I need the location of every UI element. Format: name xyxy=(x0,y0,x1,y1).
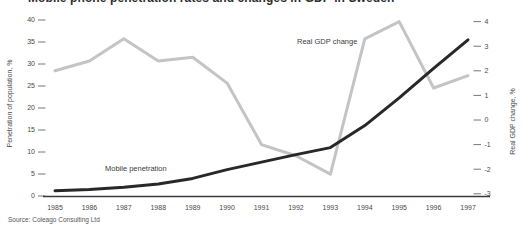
line-chart-canvas: 403530252015105043210-1-2-31985198619871… xyxy=(0,0,522,229)
right-axis-tick-label: 1 xyxy=(485,92,489,99)
series-label-mobile-penetration: Mobile penetration xyxy=(105,164,167,173)
x-axis-year-label: 1993 xyxy=(323,204,339,211)
source-note: Source: Coleago Consulting Ltd xyxy=(8,216,100,223)
x-axis-year-label: 1985 xyxy=(47,204,63,211)
x-axis-year-label: 1986 xyxy=(82,204,98,211)
series-line-real-gdp-change xyxy=(55,22,468,175)
left-axis-tick-label: 35 xyxy=(27,38,35,45)
left-axis-tick-label: 15 xyxy=(27,126,35,133)
left-axis-tick-label: 40 xyxy=(27,16,35,23)
right-axis-tick-label: 3 xyxy=(485,43,489,50)
x-axis-year-label: 1991 xyxy=(254,204,270,211)
right-axis-tick-label: 2 xyxy=(485,67,489,74)
x-axis-year-label: 1989 xyxy=(185,204,201,211)
x-axis-year-label: 1995 xyxy=(391,204,407,211)
x-axis-year-label: 1997 xyxy=(460,204,476,211)
x-axis-year-label: 1990 xyxy=(219,204,235,211)
series-label-real-gdp-change: Real GDP change xyxy=(297,37,357,46)
right-axis-tick-label: 4 xyxy=(485,18,489,25)
x-axis-year-label: 1988 xyxy=(150,204,166,211)
x-axis-year-label: 1996 xyxy=(426,204,442,211)
right-axis-tick-label: -1 xyxy=(485,141,491,148)
left-axis-tick-label: 10 xyxy=(27,148,35,155)
right-axis-tick-label: -2 xyxy=(485,166,491,173)
left-axis-tick-label: 0 xyxy=(31,192,35,199)
left-axis-tick-label: 5 xyxy=(31,170,35,177)
left-axis-tick-label: 25 xyxy=(27,82,35,89)
x-axis-year-label: 1992 xyxy=(288,204,304,211)
left-axis-tick-label: 30 xyxy=(27,60,35,67)
right-axis-tick-label: 0 xyxy=(485,116,489,123)
x-axis-year-label: 1987 xyxy=(116,204,132,211)
left-axis-tick-label: 20 xyxy=(27,104,35,111)
x-axis-year-label: 1994 xyxy=(357,204,373,211)
